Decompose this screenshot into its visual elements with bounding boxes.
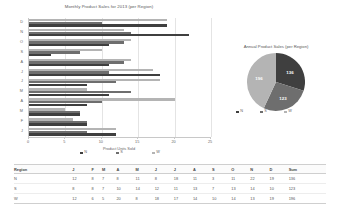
y-axis-label: M: [20, 90, 23, 94]
bar-chart-x-axis-title: Product Units Sold: [28, 146, 210, 151]
bar-group: [29, 28, 211, 38]
pie-legend-item-n[interactable]: N: [236, 110, 243, 114]
table-cell: 3: [212, 174, 231, 184]
bar-group: [29, 87, 211, 97]
table-head: RegionJFMAMJJASONDSum: [14, 165, 326, 174]
legend-swatch-icon: [236, 111, 239, 114]
legend-label: N: [240, 110, 243, 114]
bar-chart-title: Monthly Product Sales for 2013 (per Regi…: [0, 4, 218, 9]
table-cell: 10: [212, 193, 231, 203]
sales-data-table-wrapper: RegionJFMAMJJASONDSum N12878118181131122…: [14, 164, 326, 204]
table-column-header: A: [193, 165, 212, 174]
table-cell: 22: [250, 174, 269, 184]
table-cell: 14: [136, 183, 155, 193]
x-tick-mark: [174, 137, 175, 139]
bar-n: [29, 34, 189, 36]
x-tick-mark: [210, 137, 211, 139]
pie-legend-item-w[interactable]: W: [284, 110, 292, 114]
table-cell: 7: [102, 183, 116, 193]
legend-label: N: [84, 151, 87, 155]
annual-sales-pie-chart: Annual Product Sales (per Region) 136123…: [212, 44, 340, 134]
table-cell: 8: [155, 174, 174, 184]
table-cell: 17: [174, 193, 193, 203]
table-column-header: J: [155, 165, 174, 174]
legend-label: W: [156, 151, 160, 155]
x-axis-tick-label: 0: [27, 140, 29, 144]
table-cell: W: [14, 193, 72, 203]
table-column-header: F: [91, 165, 102, 174]
table-column-header: S: [212, 165, 231, 174]
table-cell: 20: [116, 193, 135, 203]
bar-n: [29, 64, 109, 66]
table-cell: 13: [250, 193, 269, 203]
bar-n: [29, 94, 109, 96]
table-column-header: D: [270, 165, 289, 174]
table-cell: 13: [193, 183, 212, 193]
bar-group: [29, 78, 211, 88]
legend-label: S: [264, 110, 267, 114]
bar-group: [29, 48, 211, 58]
bar-n: [29, 44, 109, 46]
table-cell: 11: [136, 174, 155, 184]
table-cell: 14: [250, 183, 269, 193]
bar-group: [29, 97, 211, 107]
bar-chart-x-axis: [28, 137, 210, 138]
legend-item-s[interactable]: S: [116, 151, 123, 155]
legend-item-n[interactable]: N: [80, 151, 87, 155]
bar-group: [29, 127, 211, 137]
table-column-header: Sum: [289, 165, 326, 174]
pie-data-label: 196: [255, 76, 262, 81]
table-cell: 8: [136, 193, 155, 203]
legend-label: S: [120, 151, 123, 155]
bar-group: [29, 58, 211, 68]
y-axis-label: F: [21, 120, 23, 124]
y-axis-label: A: [20, 100, 23, 104]
table-row: N1287811818113112219136: [14, 174, 326, 184]
table-cell: 136: [289, 174, 326, 184]
x-axis-tick-label: 10: [99, 140, 103, 144]
table-body: N1287811818113112219136S8871014121113713…: [14, 174, 326, 203]
x-tick-mark: [28, 137, 29, 139]
legend-label: W: [288, 110, 292, 114]
x-tick-mark: [137, 137, 138, 139]
bar-n: [29, 84, 87, 86]
table-cell: 12: [72, 174, 91, 184]
bar-n: [29, 74, 160, 76]
legend-swatch-icon: [260, 111, 263, 114]
table-cell: 8: [91, 183, 102, 193]
table-cell: 11: [231, 174, 250, 184]
table-column-header: J: [174, 165, 193, 174]
table-cell: 8: [91, 174, 102, 184]
pie-chart-title: Annual Product Sales (per Region): [212, 44, 340, 49]
y-axis-label: S: [20, 51, 23, 55]
bar-n: [29, 133, 116, 135]
y-axis-label: N: [20, 31, 23, 35]
legend-item-w[interactable]: W: [152, 151, 160, 155]
table-cell: 19: [270, 193, 289, 203]
table-cell: S: [14, 183, 72, 193]
table-row: S88710141211137131410123: [14, 183, 326, 193]
monthly-sales-bar-chart: Monthly Product Sales for 2013 (per Regi…: [0, 4, 218, 156]
table-cell: 11: [193, 174, 212, 184]
bar-n: [29, 104, 87, 106]
table-row: W126520818171410141319196: [14, 193, 326, 203]
x-tick-mark: [64, 137, 65, 139]
sales-data-table: RegionJFMAMJJASONDSum N12878118181131122…: [14, 164, 326, 204]
table-column-header: J: [72, 165, 91, 174]
pie-chart-legend: NSW: [212, 110, 340, 118]
table-column-header: M: [102, 165, 116, 174]
bar-chart-plot-area: [28, 18, 211, 137]
pie-legend-item-s[interactable]: S: [260, 110, 267, 114]
bar-group: [29, 18, 211, 28]
bar-group: [29, 107, 211, 117]
bar-group: [29, 117, 211, 127]
table-cell: N: [14, 174, 72, 184]
pie-chart-graphic: [246, 52, 306, 112]
table-column-header: O: [231, 165, 250, 174]
table-cell: 12: [155, 183, 174, 193]
x-axis-tick-label: 5: [63, 140, 65, 144]
bar-chart-legend: NSW: [28, 151, 210, 159]
table-cell: 12: [72, 193, 91, 203]
table-cell: 14: [193, 193, 212, 203]
table-cell: 18: [174, 174, 193, 184]
